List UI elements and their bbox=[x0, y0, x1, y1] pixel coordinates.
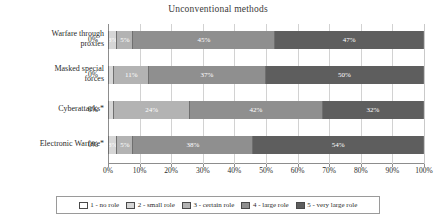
zero-label-row-1: 0% bbox=[88, 70, 98, 79]
legend-swatch-icon-3 bbox=[182, 202, 191, 209]
bar-segment: 47% bbox=[275, 31, 424, 49]
bar-segment-value: 54% bbox=[332, 142, 345, 149]
x-axis-tick-label-50: 50% bbox=[259, 166, 273, 175]
x-axis-tick-label-80: 80% bbox=[354, 166, 368, 175]
bar-segment-value: 50% bbox=[338, 72, 351, 79]
x-axis-tick-label-0: 0% bbox=[103, 166, 113, 175]
x-axis-tick-label-100: 100% bbox=[415, 166, 433, 175]
bar-segment: 24% bbox=[114, 101, 190, 119]
x-axis-tick-label-20: 20% bbox=[164, 166, 178, 175]
bar-segment: 5% bbox=[117, 31, 133, 49]
bar-segment: 37% bbox=[149, 66, 266, 84]
bar-segment-value: 3% bbox=[108, 37, 117, 44]
x-axis-tick-label-90: 90% bbox=[386, 166, 400, 175]
bar-segment: 5% bbox=[117, 136, 133, 154]
legend-swatch-icon-2 bbox=[126, 202, 135, 209]
bar-segment: 3% bbox=[108, 136, 117, 154]
bar-segment: 42% bbox=[190, 101, 323, 119]
bar-segment-value: 11% bbox=[125, 72, 138, 79]
chart-container: Unconventional methods Warfare through p… bbox=[0, 0, 436, 224]
bar-segment-value: 37% bbox=[201, 72, 214, 79]
x-axis-tick-label-40: 40% bbox=[228, 166, 242, 175]
legend-item-2: 2 - small role bbox=[126, 201, 175, 209]
bar-segment: 50% bbox=[266, 66, 424, 84]
bar-row: 3%5%38%54% bbox=[108, 136, 424, 154]
bar-segment: 38% bbox=[133, 136, 253, 154]
legend-item-5: 5 - very large role bbox=[296, 201, 358, 209]
zero-label-row-3: 0% bbox=[88, 140, 98, 149]
legend-label-3: 3 - certain role bbox=[193, 201, 234, 209]
bar-row: 11%37%50% bbox=[108, 66, 424, 84]
bar-segment-value: 45% bbox=[197, 37, 210, 44]
x-axis-tick-label-30: 30% bbox=[196, 166, 210, 175]
legend-swatch-icon-1 bbox=[79, 202, 88, 209]
legend-swatch-icon-5 bbox=[296, 202, 305, 209]
bar-segment-value: 38% bbox=[186, 142, 199, 149]
x-axis-tick-label-10: 10% bbox=[133, 166, 147, 175]
legend-label-5: 5 - very large role bbox=[307, 201, 357, 209]
bar-segment: 54% bbox=[253, 136, 424, 154]
bar-segment-value: 24% bbox=[145, 107, 158, 114]
zero-label-row-0: 0% bbox=[88, 35, 98, 44]
bar-segment-value: 5% bbox=[120, 37, 129, 44]
legend-label-4: 4 - large role bbox=[253, 201, 289, 209]
zero-label-row-2: 0% bbox=[88, 105, 98, 114]
legend-swatch-icon-4 bbox=[241, 202, 250, 209]
x-axis-tick-label-70: 70% bbox=[322, 166, 336, 175]
bar-row: 3%5%45%47% bbox=[108, 31, 424, 49]
legend-label-1: 1 - no role bbox=[90, 201, 119, 209]
bar-segment: 45% bbox=[133, 31, 275, 49]
bar-segment-value: 3% bbox=[108, 142, 117, 149]
bar-segment-value: 5% bbox=[120, 142, 129, 149]
legend: 1 - no role 2 - small role 3 - certain r… bbox=[56, 196, 380, 214]
bar-row: 24%42%32% bbox=[108, 101, 424, 119]
chart-title: Unconventional methods bbox=[0, 4, 436, 14]
bar-segment: 3% bbox=[108, 31, 117, 49]
gridline-100 bbox=[424, 24, 425, 164]
bar-segment-value: 47% bbox=[343, 37, 356, 44]
legend-item-1: 1 - no role bbox=[79, 201, 119, 209]
legend-item-3: 3 - certain role bbox=[182, 201, 235, 209]
legend-item-4: 4 - large role bbox=[241, 201, 288, 209]
legend-label-2: 2 - small role bbox=[138, 201, 175, 209]
plot-area: 3%5%45%47%11%37%50%24%42%32%3%5%38%54% bbox=[108, 24, 424, 164]
bar-segment-value: 32% bbox=[366, 107, 379, 114]
bar-segment: 32% bbox=[323, 101, 424, 119]
x-axis-tick-label-60: 60% bbox=[291, 166, 305, 175]
bar-segment: 11% bbox=[114, 66, 149, 84]
bar-segment-value: 42% bbox=[250, 107, 263, 114]
